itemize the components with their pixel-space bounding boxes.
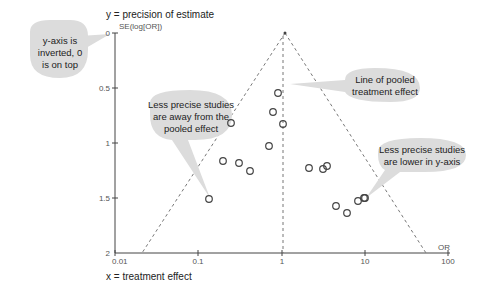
data-point bbox=[236, 160, 243, 167]
callout-inverted-line1: y-axis is bbox=[43, 35, 78, 46]
y-tick-0: 0 bbox=[106, 29, 111, 38]
callout-inverted: y-axis is inverted, 0 is on top bbox=[30, 20, 110, 78]
data-point bbox=[220, 158, 227, 165]
callout-away-line2: are away from the bbox=[153, 111, 229, 122]
data-point bbox=[206, 196, 213, 203]
y-tick-1.5: 1.5 bbox=[99, 194, 111, 203]
callout-pooled-line1: Line of pooled bbox=[355, 74, 415, 85]
x-tick-0.01: 0.01 bbox=[112, 257, 128, 266]
funnel-plot: y-axis is inverted, 0 is on top 0 0.5 1 … bbox=[0, 0, 488, 287]
y-tick-1: 1 bbox=[106, 139, 111, 148]
callout-lower: Less precise studies are lower in y-axis bbox=[366, 138, 466, 198]
callout-lower-line2: are lower in y-axis bbox=[384, 156, 461, 167]
callout-inverted-line2: inverted, 0 bbox=[38, 47, 82, 58]
x-tick-100: 100 bbox=[441, 257, 455, 266]
callout-away: Less precise studies are away from the p… bbox=[148, 90, 234, 198]
callout-pooled: Line of pooled treatment effect bbox=[290, 68, 420, 102]
x-axis-title: x = treatment effect bbox=[106, 271, 192, 282]
callout-away-line1: Less precise studies bbox=[148, 99, 234, 110]
callout-lower-line1: Less precise studies bbox=[379, 144, 465, 155]
y-axis-unit: SE(log[OR]) bbox=[119, 22, 162, 31]
data-point bbox=[333, 203, 340, 210]
callout-away-line3: pooled effect bbox=[164, 123, 219, 134]
data-point bbox=[247, 168, 254, 175]
data-point bbox=[306, 165, 313, 172]
x-tick-1: 1 bbox=[280, 257, 285, 266]
y-tick-0.5: 0.5 bbox=[99, 84, 111, 93]
x-axis-unit: OR bbox=[438, 243, 450, 252]
y-axis-title: y = precision of estimate bbox=[106, 9, 215, 20]
x-tick-10: 10 bbox=[361, 257, 370, 266]
x-axis: 0.01 0.1 1 10 100 OR x = treatment effec… bbox=[106, 243, 455, 282]
data-point bbox=[344, 210, 351, 217]
x-tick-0.1: 0.1 bbox=[192, 257, 204, 266]
funnel-apex bbox=[284, 32, 287, 35]
callout-inverted-line3: is on top bbox=[42, 59, 78, 70]
data-point bbox=[270, 109, 277, 116]
data-point bbox=[275, 90, 282, 97]
data-point bbox=[266, 143, 273, 150]
callout-pooled-line1: treatment effect bbox=[352, 86, 418, 97]
y-tick-2: 2 bbox=[106, 249, 111, 258]
